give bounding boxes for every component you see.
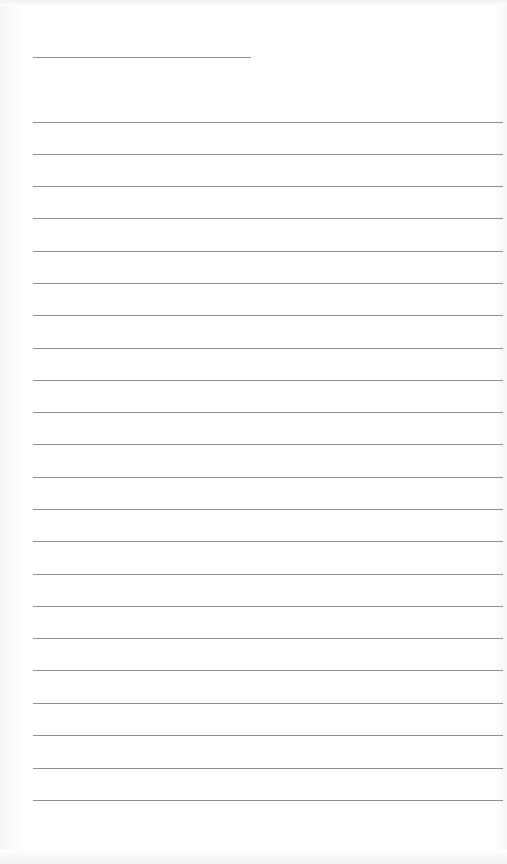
ruled-line bbox=[33, 541, 503, 542]
ruled-line bbox=[33, 154, 503, 155]
scan-edge-bottom bbox=[0, 850, 507, 864]
header-rule bbox=[33, 57, 251, 58]
ruled-line bbox=[33, 380, 503, 381]
ruled-line bbox=[33, 800, 503, 801]
ruled-line bbox=[33, 218, 503, 219]
ruled-line bbox=[33, 444, 503, 445]
ruled-line bbox=[33, 251, 503, 252]
ruled-line bbox=[33, 638, 503, 639]
ruled-line bbox=[33, 186, 503, 187]
lined-paper-page bbox=[0, 0, 507, 864]
ruled-line bbox=[33, 574, 503, 575]
ruled-line bbox=[33, 670, 503, 671]
scan-edge-top bbox=[0, 0, 507, 6]
ruled-line bbox=[33, 477, 503, 478]
ruled-line bbox=[33, 412, 503, 413]
ruled-line bbox=[33, 315, 503, 316]
ruled-line bbox=[33, 348, 503, 349]
ruled-line bbox=[33, 735, 503, 736]
ruled-line bbox=[33, 509, 503, 510]
ruled-line bbox=[33, 703, 503, 704]
ruled-line bbox=[33, 768, 503, 769]
ruled-line bbox=[33, 606, 503, 607]
ruled-line bbox=[33, 283, 503, 284]
ruled-line bbox=[33, 122, 503, 123]
